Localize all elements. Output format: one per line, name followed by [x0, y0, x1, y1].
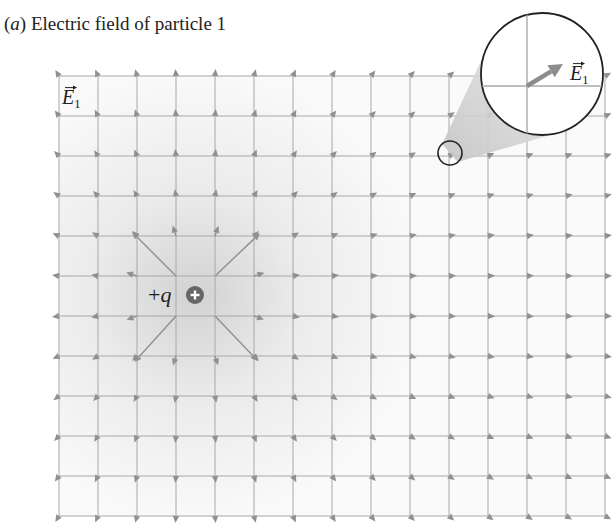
- arrow-head-icon: [605, 353, 612, 359]
- field-arrow: [212, 69, 218, 76]
- positive-charge: [186, 286, 204, 304]
- field-arrow: [173, 516, 179, 523]
- field-arrow: [605, 313, 612, 319]
- field-arrow: [212, 516, 218, 523]
- field-arrow: [605, 353, 612, 359]
- field-arrow: [605, 273, 612, 279]
- electric-field-diagram: E1E1+q: [0, 0, 613, 532]
- field-arrow: [605, 233, 612, 239]
- arrow-head-icon: [52, 313, 59, 319]
- arrow-head-icon: [605, 273, 612, 279]
- charge-label: +q: [148, 282, 171, 307]
- arrow-head-icon: [212, 69, 218, 76]
- field-arrow: [52, 273, 59, 279]
- arrow-head-icon: [173, 516, 179, 523]
- arrow-head-icon: [605, 313, 612, 319]
- arrow-head-icon: [605, 233, 612, 239]
- arrow-head-icon: [173, 69, 179, 76]
- field-arrow: [52, 313, 59, 319]
- arrow-head-icon: [212, 516, 218, 523]
- field-arrow: [173, 69, 179, 76]
- arrow-head-icon: [52, 273, 59, 279]
